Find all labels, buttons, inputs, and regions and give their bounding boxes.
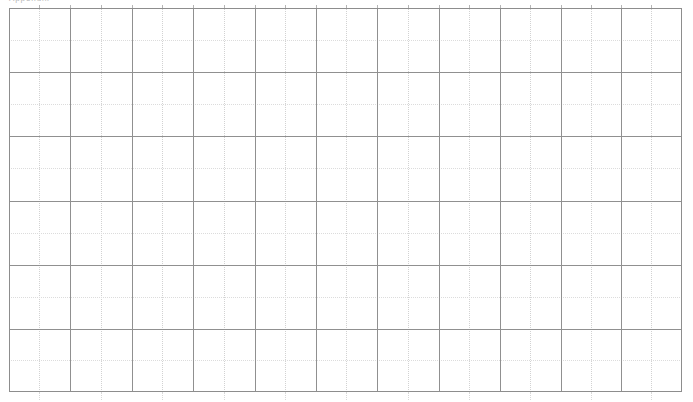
graph-paper-grid xyxy=(9,8,682,392)
page-canvas: Appendix xyxy=(0,0,693,402)
gridline-tail xyxy=(530,392,531,400)
gridline-tail xyxy=(101,392,102,400)
gridline-tail xyxy=(651,392,652,400)
page-title: Appendix xyxy=(9,0,50,4)
gridline-tail xyxy=(469,392,470,400)
gridline-tail xyxy=(162,392,163,400)
gridline-tail xyxy=(346,392,347,400)
gridline-tail xyxy=(591,392,592,400)
gridline-tail xyxy=(285,392,286,400)
gridline-tail xyxy=(408,392,409,400)
gridline-tail xyxy=(224,392,225,400)
grid-frame xyxy=(9,8,682,392)
gridline-tail xyxy=(39,392,40,400)
